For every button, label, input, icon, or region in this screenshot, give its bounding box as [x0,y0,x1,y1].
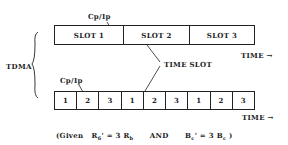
subslot-4: 1 [122,92,144,109]
subslot-7: 1 [188,92,210,109]
caption-open: (Given [56,131,83,140]
subslot-8: 2 [211,92,233,109]
subslot-6: 3 [166,92,188,109]
time-label: TIME [241,51,264,60]
time-axis-label-top: TIME → [241,51,273,60]
caption-close: ) [229,131,233,140]
bottom-frame: 1 2 3 1 2 3 1 2 3 [54,91,255,110]
subslot-9: 3 [233,92,254,109]
cp-ip-label-bottom: Cp/Ip [60,76,83,85]
arrow-right-icon: → [268,113,274,122]
subslot-3: 3 [99,92,121,109]
eq1: R6' = 3 Rb [92,131,134,140]
slot-1: SLOT 1 [55,26,124,44]
eq2: Bc' = 3 Bc [185,131,226,140]
subslot-1: 1 [55,92,77,109]
subslot-5: 2 [144,92,166,109]
caption: (Given R6' = 3 Rb AND Bc' = 3 Bc ) [56,131,233,141]
time-slot-label: TIME SLOT [164,60,212,69]
tdma-label: TDMA [6,62,32,71]
tdma-brace-icon [32,32,38,98]
time-slot-pointer-top [147,45,160,62]
connector-lines [0,0,288,145]
time-axis-label-bottom: TIME → [242,113,274,122]
cp-ip-label-top: Cp/Ip [88,12,111,21]
time-label: TIME [242,113,265,122]
slot-3: SLOT 3 [190,26,254,44]
subslot-2: 2 [77,92,99,109]
slot-2: SLOT 2 [124,26,190,44]
time-slot-pointer-bottom [145,66,160,91]
top-frame: SLOT 1 SLOT 2 SLOT 3 [54,25,255,45]
arrow-right-icon: → [267,51,273,60]
caption-and: AND [150,131,169,140]
